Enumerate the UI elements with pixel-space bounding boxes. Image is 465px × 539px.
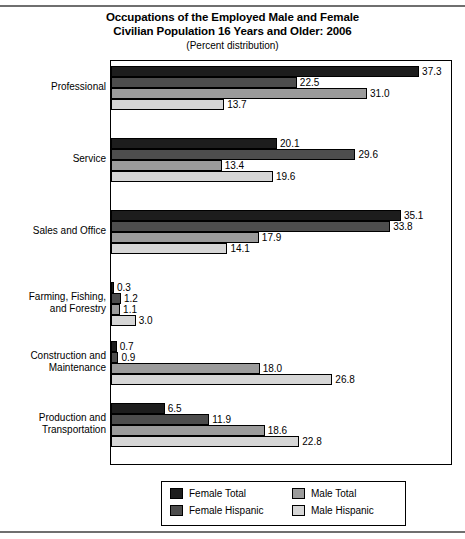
bar-value-label: 6.5	[165, 403, 182, 414]
legend-item-male-total: Male Total	[292, 487, 402, 503]
bar-value-label: 17.9	[259, 232, 281, 243]
bar	[111, 66, 419, 77]
bar-row: 13.7	[111, 99, 247, 110]
legend-swatch-icon	[292, 505, 305, 516]
bar-value-label: 13.7	[224, 99, 246, 110]
bar-row: 13.4	[111, 160, 244, 171]
legend-item-female-total: Female Total	[170, 487, 292, 503]
bar-row: 6.5	[111, 403, 182, 414]
bar-row: 33.8	[111, 221, 413, 232]
bar-row: 19.6	[111, 171, 295, 182]
bar-row: 26.8	[111, 374, 355, 385]
category-label-line: Service	[0, 153, 106, 165]
bar-value-label: 22.8	[299, 436, 321, 447]
bar-value-label: 31.0	[367, 88, 389, 99]
bar-value-label: 35.1	[401, 210, 423, 221]
bar-row: 20.1	[111, 138, 299, 149]
bar	[111, 138, 277, 149]
legend-item-female-hispanic: Female Hispanic	[170, 504, 292, 520]
bar-row: 0.7	[111, 341, 134, 352]
bar	[111, 374, 332, 385]
chart-title-line-1: Occupations of the Employed Male and Fem…	[0, 10, 465, 24]
bar-row: 0.3	[111, 282, 131, 293]
bar	[111, 77, 297, 88]
bar-value-label: 26.8	[332, 374, 354, 385]
bar-value-label: 33.8	[390, 221, 412, 232]
bar-value-label: 18.6	[265, 425, 287, 436]
bar-value-label: 1.2	[121, 293, 138, 304]
category-axis-labels: ProfessionalServiceSales and OfficeFarmi…	[0, 60, 106, 465]
category-label: Sales and Office	[0, 225, 106, 237]
bar-row: 18.0	[111, 363, 282, 374]
legend-swatch-icon	[170, 488, 183, 499]
chart-legend: Female Total Male Total Female Hispanic …	[161, 481, 406, 526]
bar	[111, 436, 299, 447]
bar-row: 1.2	[111, 293, 138, 304]
bar-row: 22.5	[111, 77, 319, 88]
bar-value-label: 14.1	[227, 243, 249, 254]
bar-value-label: 0.3	[114, 282, 131, 293]
category-label-line: Farming, Fishing,	[0, 291, 106, 303]
category-label-line: Sales and Office	[0, 225, 106, 237]
top-divider-rule	[0, 5, 465, 7]
legend-swatch-icon	[170, 505, 183, 516]
chart-title-line-2: Civilian Population 16 Years and Older: …	[0, 24, 465, 38]
bar	[111, 352, 118, 363]
bar-value-label: 19.6	[273, 171, 295, 182]
bar	[111, 160, 222, 171]
category-label: Farming, Fishing,and Forestry	[0, 291, 106, 315]
bar-row: 17.9	[111, 232, 281, 243]
bar-value-label: 20.1	[277, 138, 299, 149]
bar-row: 11.9	[111, 414, 231, 425]
bar	[111, 315, 136, 326]
bar-row: 18.6	[111, 425, 287, 436]
bar-row: 22.8	[111, 436, 322, 447]
chart-page: Occupations of the Employed Male and Fem…	[0, 0, 465, 539]
bar-value-label: 11.9	[209, 414, 231, 425]
bar-value-label: 22.5	[297, 77, 319, 88]
bar	[111, 232, 259, 243]
category-label-line: Construction and	[0, 350, 106, 362]
legend-swatch-icon	[292, 488, 305, 499]
category-label-line: and Forestry	[0, 303, 106, 315]
chart-subtitle: (Percent distribution)	[0, 39, 465, 53]
bar	[111, 304, 120, 315]
chart-title-block: Occupations of the Employed Male and Fem…	[0, 10, 465, 53]
bar-row: 37.3	[111, 66, 442, 77]
bar-row: 31.0	[111, 88, 390, 99]
bar-value-label: 0.9	[118, 352, 135, 363]
legend-row: Female Total Male Total	[170, 487, 405, 504]
bar-row: 29.6	[111, 149, 378, 160]
bar	[111, 403, 165, 414]
bars-layer: 37.322.531.013.720.129.613.419.635.133.8…	[111, 61, 451, 464]
legend-label: Male Hispanic	[305, 504, 374, 517]
bar-row: 0.9	[111, 352, 135, 363]
bar-row: 35.1	[111, 210, 423, 221]
category-label-line: Transportation	[0, 424, 106, 436]
legend-label: Male Total	[305, 487, 356, 500]
bar	[111, 221, 390, 232]
legend-row: Female Hispanic Male Hispanic	[170, 504, 405, 521]
bar	[111, 149, 355, 160]
bottom-divider-rule	[0, 531, 465, 533]
category-label: Professional	[0, 81, 106, 93]
bar	[111, 99, 224, 110]
bar	[111, 363, 260, 374]
bar-row: 3.0	[111, 315, 153, 326]
legend-label: Female Total	[183, 487, 246, 500]
bar	[111, 414, 209, 425]
category-label-line: Production and	[0, 412, 106, 424]
category-label-line: Maintenance	[0, 362, 106, 374]
bar-value-label: 3.0	[136, 315, 153, 326]
bar	[111, 210, 401, 221]
legend-label: Female Hispanic	[183, 504, 263, 517]
bar	[111, 425, 265, 436]
bar	[111, 243, 227, 254]
category-label: Production andTransportation	[0, 412, 106, 436]
bar-value-label: 29.6	[355, 149, 377, 160]
bar-row: 14.1	[111, 243, 250, 254]
bar-value-label: 13.4	[222, 160, 244, 171]
bar	[111, 88, 367, 99]
bar	[111, 171, 273, 182]
bar	[111, 293, 121, 304]
